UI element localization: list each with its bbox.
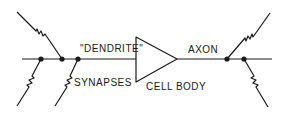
output-branch-lower	[244, 59, 268, 107]
output-branch-upper	[227, 13, 270, 59]
axon-label: AXON	[188, 45, 218, 55]
neuron-diagram: "DENDRITE" SYNAPSES CELL BODY AXON	[0, 0, 290, 114]
axon-terminal-node-1	[224, 56, 229, 61]
synapse-node-2	[59, 56, 64, 61]
input-branch-lower-1	[17, 59, 41, 106]
diagram-graphics	[0, 0, 290, 114]
input-branch-upper	[17, 12, 62, 59]
axon-terminal-node-2	[241, 56, 246, 61]
synapse-node-1	[38, 56, 43, 61]
cell-body-label: CELL BODY	[146, 82, 206, 92]
synapses-label: SYNAPSES	[74, 78, 132, 88]
synapse-node-3	[75, 56, 80, 61]
dendrite-label: "DENDRITE"	[80, 44, 143, 54]
